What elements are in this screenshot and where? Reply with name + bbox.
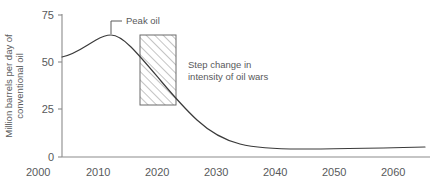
y-axis-title-line2: conventional oil — [14, 53, 25, 119]
y-tick-label-75: 75 — [42, 9, 54, 21]
x-tick-label-2010: 2010 — [86, 166, 110, 178]
conventional-oil-curve — [62, 35, 425, 149]
y-axis-title-line1: Million barrels per day of — [3, 34, 14, 138]
y-axis-ticks — [58, 15, 62, 157]
chart-canvas: 0 25 50 75 2000 2010 2020 2030 2040 2050… — [0, 0, 436, 185]
x-tick-label-2000: 2000 — [26, 166, 50, 178]
y-tick-label-0: 0 — [48, 151, 54, 163]
oil-production-chart: 0 25 50 75 2000 2010 2020 2030 2040 2050… — [0, 0, 436, 185]
x-tick-label-2060: 2060 — [381, 166, 405, 178]
x-tick-label-2050: 2050 — [322, 166, 346, 178]
y-axis-title: Million barrels per day of conventional … — [3, 34, 25, 138]
oil-wars-label-line1: Step change in — [188, 59, 251, 70]
x-tick-label-2020: 2020 — [145, 166, 169, 178]
peak-oil-leader-line — [111, 21, 122, 34]
x-tick-label-2040: 2040 — [263, 166, 287, 178]
peak-oil-label: Peak oil — [126, 15, 160, 26]
y-tick-label-50: 50 — [42, 56, 54, 68]
x-tick-label-2030: 2030 — [204, 166, 228, 178]
oil-wars-label-line2: intensity of oil wars — [188, 71, 269, 82]
y-tick-label-25: 25 — [42, 103, 54, 115]
step-change-band — [140, 35, 176, 105]
